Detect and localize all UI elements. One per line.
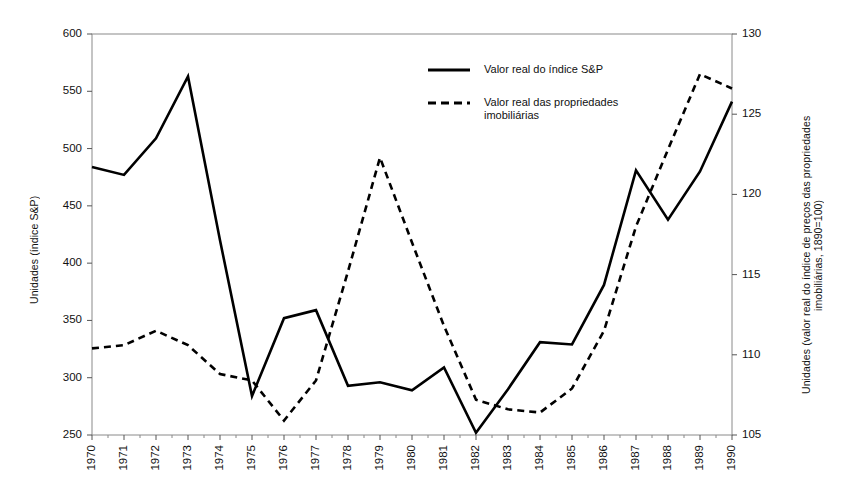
y-axis-left-tick-250: 250 [44, 428, 82, 440]
x-axis-tick-1982: 1982 [469, 445, 481, 471]
y-axis-left-tick-550: 550 [44, 84, 82, 96]
plot-area [0, 0, 845, 502]
y-axis-left-tick-450: 450 [44, 199, 82, 211]
y-axis-left-tick-400: 400 [44, 256, 82, 268]
x-axis-tick-1989: 1989 [693, 445, 705, 471]
y-axis-right-tick-115: 115 [742, 268, 780, 280]
x-axis-tick-1970: 1970 [85, 445, 97, 471]
x-axis-tick-1990: 1990 [725, 445, 737, 471]
legend-line-samples [428, 70, 470, 103]
chart-figure: Unidades (índice S&P) Unidades (valor re… [0, 0, 845, 502]
x-axis-tick-1973: 1973 [181, 445, 193, 471]
legend-item-label-2: Valor real das propriedades imobiliárias [484, 96, 618, 122]
x-axis-tick-1971: 1971 [117, 445, 129, 471]
x-axis-tick-1981: 1981 [437, 445, 449, 471]
y-axis-right-tick-125: 125 [742, 107, 780, 119]
series-line-sp-index [92, 76, 732, 432]
legend-item-label-1: Valor real do índice S&P [484, 63, 603, 76]
plot-frame [92, 34, 732, 435]
x-axis-tick-1985: 1985 [565, 445, 577, 471]
x-axis-tick-1986: 1986 [597, 445, 609, 471]
x-axis-tick-1975: 1975 [245, 445, 257, 471]
x-axis-tick-1977: 1977 [309, 445, 321, 471]
x-axis-tick-1974: 1974 [213, 445, 225, 471]
y-axis-right-tick-105: 105 [742, 428, 780, 440]
x-axis-tick-1976: 1976 [277, 445, 289, 471]
y-axis-right-tick-110: 110 [742, 348, 780, 360]
y-axis-left-tick-300: 300 [44, 371, 82, 383]
x-axis-tick-1987: 1987 [629, 445, 641, 471]
x-axis-tick-1980: 1980 [405, 445, 417, 471]
x-axis-tick-1984: 1984 [533, 445, 545, 471]
data-series-lines [92, 74, 732, 433]
y-axis-left-tick-500: 500 [44, 142, 82, 154]
y-axis-left-tick-350: 350 [44, 313, 82, 325]
x-axis-tick-1983: 1983 [501, 445, 513, 471]
y-axis-right-tick-120: 120 [742, 187, 780, 199]
x-axis-tick-1988: 1988 [661, 445, 673, 471]
y-axis-left-tick-600: 600 [44, 27, 82, 39]
axis-ticks [87, 34, 737, 440]
x-axis-tick-1978: 1978 [341, 445, 353, 471]
x-axis-tick-1979: 1979 [373, 445, 385, 471]
series-line-properties [92, 74, 732, 420]
y-axis-right-tick-130: 130 [742, 27, 780, 39]
x-axis-tick-1972: 1972 [149, 445, 161, 471]
